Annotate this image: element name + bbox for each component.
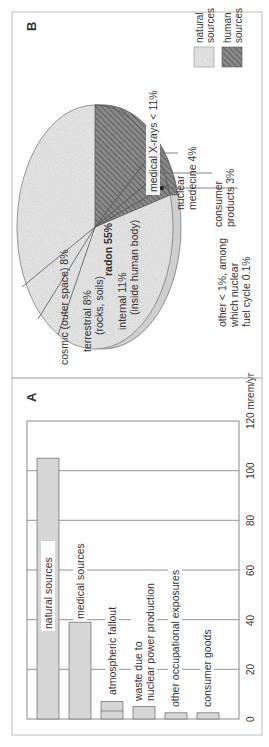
bar-label-waste-1: waste due to bbox=[132, 641, 144, 702]
label-consumer-1: consumer bbox=[212, 180, 224, 227]
panel-b-label: B bbox=[24, 22, 39, 31]
label-consumer-2: products 3% bbox=[224, 169, 236, 227]
bar-label-consumer: consumer goods bbox=[201, 629, 213, 707]
label-nucmed-1: nuclear bbox=[174, 175, 186, 210]
label-terrestrial-2: (rocks, soils) bbox=[93, 276, 105, 335]
legend-label-human-1: human bbox=[222, 12, 233, 43]
svg-text:120 mrem/yr: 120 mrem/yr bbox=[245, 372, 256, 429]
label-other-2: which nuclear bbox=[228, 262, 240, 328]
legend: natural sources human sources bbox=[194, 8, 244, 67]
legend-swatch-human bbox=[222, 47, 242, 67]
label-cosmic: cosmic (outer space) 8% bbox=[58, 249, 70, 365]
svg-text:0: 0 bbox=[245, 716, 256, 722]
panel-a: A bbox=[12, 372, 262, 735]
bar-label-occupational: other occupational exposures bbox=[169, 570, 181, 707]
panel-b: B bbox=[12, 8, 262, 378]
bar-plot-area: natural sources medical sources atmosphe… bbox=[27, 421, 239, 719]
label-internal-1: internal 11% bbox=[116, 272, 128, 330]
svg-text:100: 100 bbox=[245, 462, 256, 479]
bar-waste-nuclear bbox=[133, 707, 155, 719]
svg-text:80: 80 bbox=[245, 514, 256, 526]
svg-text:40: 40 bbox=[245, 614, 256, 626]
panel-a-label: A bbox=[24, 392, 39, 402]
label-other-3: fuel cycle 0.1% bbox=[240, 256, 252, 327]
bar-label-natural: natural sources bbox=[42, 557, 54, 629]
svg-text:60: 60 bbox=[245, 564, 256, 576]
legend-label-natural-2: sources bbox=[205, 8, 216, 43]
bar-label-fallout: atmospheric fallout bbox=[106, 607, 118, 695]
label-terrestrial-1: terrestrial 8% bbox=[81, 290, 93, 352]
bar-consumer-goods bbox=[197, 713, 219, 719]
bar-atmospheric-fallout bbox=[101, 702, 123, 719]
bar-label-medical: medical sources bbox=[74, 543, 86, 619]
label-radon: radon 55% bbox=[102, 222, 114, 276]
legend-label-human-2: sources bbox=[233, 8, 244, 43]
label-internal-2: (inside human body) bbox=[128, 220, 140, 315]
label-xrays: medical X-rays < 11% bbox=[147, 90, 159, 192]
figure: A bbox=[0, 0, 269, 747]
x-axis-ticks: 0 20 40 60 80 100 120 mrem/yr bbox=[245, 372, 256, 722]
legend-label-natural-1: natural bbox=[194, 12, 205, 43]
svg-text:20: 20 bbox=[245, 663, 256, 675]
label-nucmed-2: medecine 4% bbox=[186, 146, 198, 210]
bar-other-occupational bbox=[165, 713, 187, 719]
label-other-1: other < 1%, among bbox=[216, 238, 228, 327]
bar-medical-sources bbox=[69, 622, 91, 719]
bar-label-waste-2: nuclear power production bbox=[144, 583, 156, 701]
